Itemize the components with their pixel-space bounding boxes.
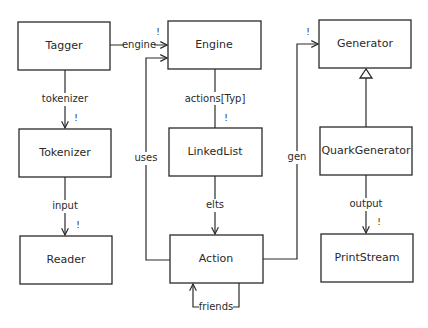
class-label-printstream: PrintStream [334,251,399,264]
class-label-tagger: Tagger [45,39,83,52]
class-label-action: Action [199,252,233,265]
edge-action-engine: uses [134,58,170,260]
edge-label-tokenizer: tokenizer [42,93,89,104]
edge-tagger-tokenizer: tokenizer ! [42,70,89,128]
class-label-engine: Engine [195,38,233,51]
edge-action-generator: gen ! [263,27,318,260]
edge-engine-linkedlist: actions[Typ] ! [185,69,246,128]
class-label-linkedlist: LinkedList [187,145,243,158]
class-label-reader: Reader [47,253,86,266]
class-box-engine: Engine [168,21,261,69]
edge-label-output: output [350,198,383,209]
class-label-generator: Generator [337,37,393,50]
class-box-tokenizer: Tokenizer [19,129,111,177]
class-box-generator: Generator [319,20,411,68]
edge-quarkgenerator-generator-inheritance [360,69,372,127]
multiplicity-output: ! [377,217,381,227]
edge-label-input: input [52,200,78,211]
class-box-action: Action [170,235,263,283]
class-box-printstream: PrintStream [321,234,413,282]
class-box-reader: Reader [20,236,112,284]
edge-label-actions: actions[Typ] [185,93,246,104]
edge-label-uses: uses [135,152,158,163]
edge-linkedlist-action: elts [203,176,227,234]
edge-quarkgenerator-printstream: output ! [349,175,383,233]
edge-tagger-engine: engine ! [110,27,167,52]
edge-label-gen: gen [288,151,307,162]
edge-label-elts: elts [206,199,224,210]
class-box-quarkgenerator: QuarkGenerator [320,127,412,175]
class-label-tokenizer: Tokenizer [38,146,91,159]
inheritance-triangle-icon [360,69,372,78]
edge-label-engine: engine [122,39,156,50]
multiplicity-engine: ! [156,27,160,37]
edge-label-friends: friends [199,301,233,312]
multiplicity-actions: ! [224,113,228,123]
class-diagram: engine ! tokenizer ! input ! actions[Typ… [0,0,428,328]
edge-tokenizer-reader: input ! [50,177,80,235]
class-box-linkedlist: LinkedList [169,128,262,176]
class-label-quarkgenerator: QuarkGenerator [321,144,411,157]
class-box-tagger: Tagger [18,22,110,70]
edge-action-friends: friends [193,283,239,313]
multiplicity-gen: ! [306,27,310,37]
multiplicity-input: ! [76,220,80,230]
multiplicity-tokenizer: ! [74,113,78,123]
